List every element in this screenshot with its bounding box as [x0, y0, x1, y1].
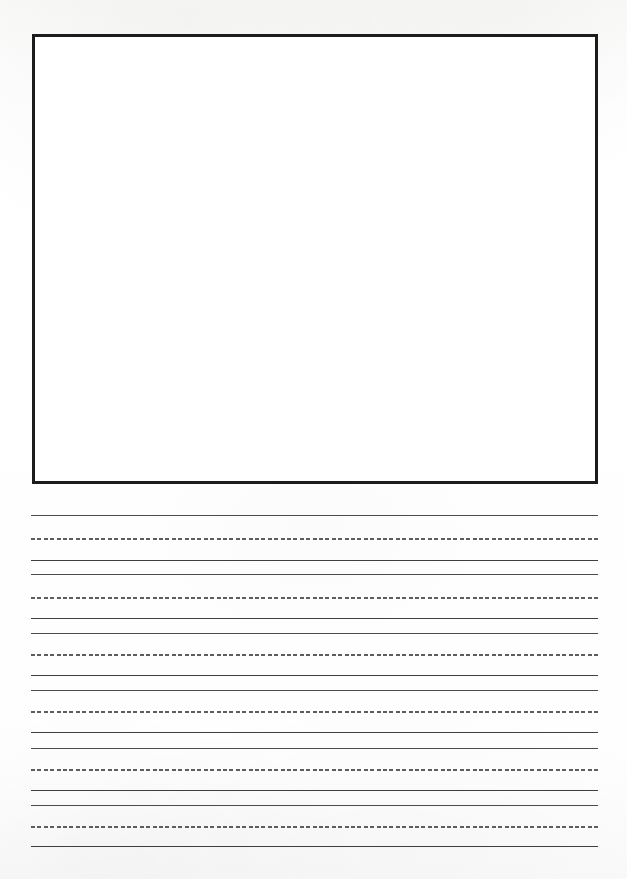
writing-line-solid-top-line	[31, 633, 598, 634]
drawing-canvas[interactable]	[35, 37, 595, 481]
writing-line-dashed-midline	[31, 538, 598, 540]
writing-line-solid-baseline	[31, 618, 598, 619]
writing-line-solid-baseline	[31, 560, 598, 561]
writing-line-solid-baseline	[31, 732, 598, 733]
writing-line-solid-top-line	[31, 515, 598, 516]
writing-line-solid-baseline	[31, 675, 598, 676]
writing-line-dashed-midline	[31, 597, 598, 599]
writing-line-solid-top-line	[31, 690, 598, 691]
writing-line-dashed-midline	[31, 654, 598, 656]
writing-line-solid-top-line	[31, 748, 598, 749]
writing-line-solid-top-line	[31, 574, 598, 575]
writing-line-solid-baseline	[31, 790, 598, 791]
writing-line-solid-baseline	[31, 846, 598, 847]
writing-line-solid-top-line	[31, 805, 598, 806]
writing-line-dashed-midline	[31, 826, 598, 828]
writing-line-dashed-midline	[31, 711, 598, 713]
writing-line-dashed-midline	[31, 769, 598, 771]
worksheet-page	[0, 0, 627, 879]
drawing-box[interactable]	[32, 34, 598, 484]
